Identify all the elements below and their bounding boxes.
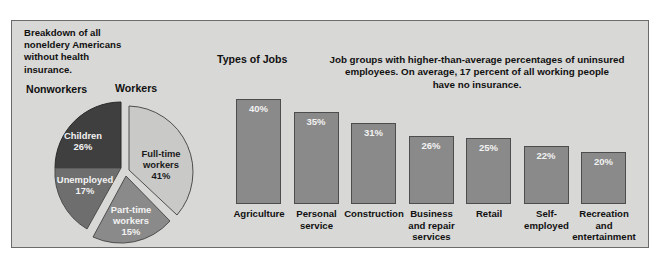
figure-canvas: Breakdown of allnoneldery Americanswitho…	[0, 0, 660, 262]
bar-value-label: 26%	[410, 140, 453, 151]
bar-category-label-line-2: and	[572, 220, 636, 232]
bar-group: 22%Self-employed	[518, 21, 576, 249]
bar-category-label: Retail	[457, 205, 521, 249]
bar-group: 35%Personalservice	[288, 21, 346, 249]
bar-category-label: Personalservice	[285, 205, 349, 249]
bar-group: 25%Retail	[460, 21, 518, 249]
bar-category-label-line-1: Recreation	[572, 208, 636, 220]
bar-category-label: Agriculture	[227, 205, 291, 249]
bar-category-label-line-1: Agriculture	[227, 208, 291, 220]
bar-category-label-line-3: services	[400, 231, 464, 243]
bar-group: 26%Businessand repairservices	[403, 21, 461, 249]
bar-chart: 40%Agriculture35%Personalservice31%Const…	[12, 21, 650, 249]
bar-value-label: 22%	[525, 150, 568, 161]
bar-category-label: Construction	[342, 205, 406, 249]
bar-rect[interactable]: 25%	[466, 138, 511, 204]
bar-category-label-line-1: Self-	[515, 208, 579, 220]
bar-rect[interactable]: 20%	[581, 152, 626, 205]
bar-value-label: 35%	[295, 116, 338, 127]
bar-rect[interactable]: 40%	[236, 99, 281, 204]
bar-rect[interactable]: 31%	[351, 123, 396, 204]
bar-rect[interactable]: 26%	[409, 136, 454, 204]
figure-panel: Breakdown of allnoneldery Americanswitho…	[11, 20, 649, 248]
bar-rect[interactable]: 35%	[294, 112, 339, 204]
bar-rect[interactable]: 22%	[524, 146, 569, 204]
bar-group: 31%Construction	[345, 21, 403, 249]
bar-category-label-line-1: Retail	[457, 208, 521, 220]
bar-value-label: 31%	[352, 127, 395, 138]
bar-value-label: 20%	[582, 156, 625, 167]
bar-category-label-line-1: Personal	[285, 208, 349, 220]
bar-category-label-line-2: service	[285, 220, 349, 232]
bar-category-label-line-1: Business	[400, 208, 464, 220]
bar-category-label: Recreationandentertainment	[572, 205, 636, 249]
bar-group: 40%Agriculture	[230, 21, 288, 249]
bar-category-label: Businessand repairservices	[400, 205, 464, 249]
bar-value-label: 25%	[467, 142, 510, 153]
bar-category-label-line-2: employed	[515, 220, 579, 232]
bar-category-label-line-3: entertainment	[572, 231, 636, 243]
bar-category-label-line-1: Construction	[342, 208, 406, 220]
bar-category-label: Self-employed	[515, 205, 579, 249]
bar-value-label: 40%	[237, 103, 280, 114]
bar-group: 20%Recreationandentertainment	[575, 21, 633, 249]
bar-category-label-line-2: and repair	[400, 220, 464, 232]
